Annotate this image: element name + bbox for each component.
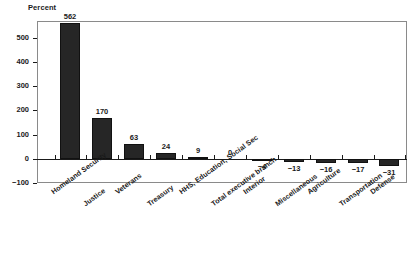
x-axis-tick <box>150 155 151 159</box>
x-axis-tick <box>278 155 279 159</box>
y-axis-tick-label: 300 <box>3 81 29 90</box>
x-axis-tick <box>86 155 87 159</box>
x-axis-tick <box>405 155 406 159</box>
bar <box>284 159 304 162</box>
y-axis-tick-label: 400 <box>3 57 29 66</box>
y-axis-tick <box>33 86 37 87</box>
bar <box>188 157 208 159</box>
bar <box>60 23 80 159</box>
y-axis-tick <box>33 38 37 39</box>
x-axis-tick <box>118 155 119 159</box>
x-axis-tick <box>342 155 343 159</box>
x-axis-tick <box>55 155 56 159</box>
bar <box>316 159 336 163</box>
y-axis-tick <box>33 110 37 111</box>
x-axis-category-label: Treasury <box>145 183 175 208</box>
y-axis-tick-label: 0 <box>3 154 29 163</box>
x-axis-tick <box>374 155 375 159</box>
bar <box>348 159 368 163</box>
bar-value-label: 63 <box>114 133 154 142</box>
x-axis-category-label: Justice <box>81 186 107 208</box>
bar <box>124 144 144 159</box>
bar-value-label: 170 <box>82 107 122 116</box>
y-axis-tick <box>33 183 37 184</box>
y-axis-title: Percent <box>28 3 56 12</box>
bar <box>156 153 176 159</box>
y-axis-tick-label: 200 <box>3 105 29 114</box>
bar-chart: Percent −1000100200300400500 56217063249… <box>0 0 420 256</box>
bar <box>379 159 399 166</box>
y-axis-tick <box>33 135 37 136</box>
y-axis-tick-label: 100 <box>3 130 29 139</box>
x-axis-tick <box>182 155 183 159</box>
bar-value-label: 562 <box>50 12 90 21</box>
y-axis-tick-label: 500 <box>3 33 29 42</box>
x-axis-tick <box>310 155 311 159</box>
y-axis-tick-label: −100 <box>3 178 29 187</box>
y-axis-tick <box>33 159 37 160</box>
y-axis-tick <box>33 62 37 63</box>
